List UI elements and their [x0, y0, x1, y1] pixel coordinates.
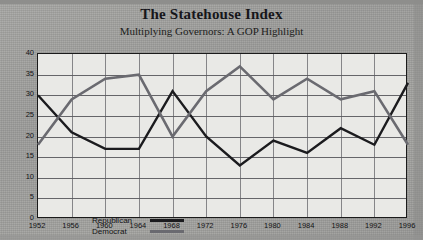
y-axis-tick-label: 40 — [12, 49, 34, 57]
y-axis-tick-label: 15 — [12, 152, 34, 160]
y-axis-tick-label: 25 — [12, 111, 34, 119]
plot-area: Republican Democrat — [37, 53, 407, 218]
x-axis-tick-label: 1996 — [387, 221, 423, 231]
y-axis-tick-label: 30 — [12, 90, 34, 98]
y-axis-tick-label: 10 — [12, 173, 34, 181]
chart-header: The Statehouse Index Multiplying Governo… — [0, 6, 423, 38]
scan-edge-top — [0, 0, 423, 4]
scan-edge-bottom — [0, 235, 423, 240]
y-axis-tick-label: 35 — [12, 70, 34, 78]
page-title: The Statehouse Index — [0, 6, 423, 23]
y-axis-labels: 0510152025303540 — [8, 53, 34, 218]
y-axis-tick-label: 20 — [12, 132, 34, 140]
y-axis-tick-label: 5 — [12, 193, 34, 201]
data-series-layer — [38, 54, 408, 219]
x-axis-labels: 1952195619601964196819721976198019841988… — [37, 221, 407, 235]
page-subtitle: Multiplying Governors: A GOP Highlight — [0, 24, 423, 38]
